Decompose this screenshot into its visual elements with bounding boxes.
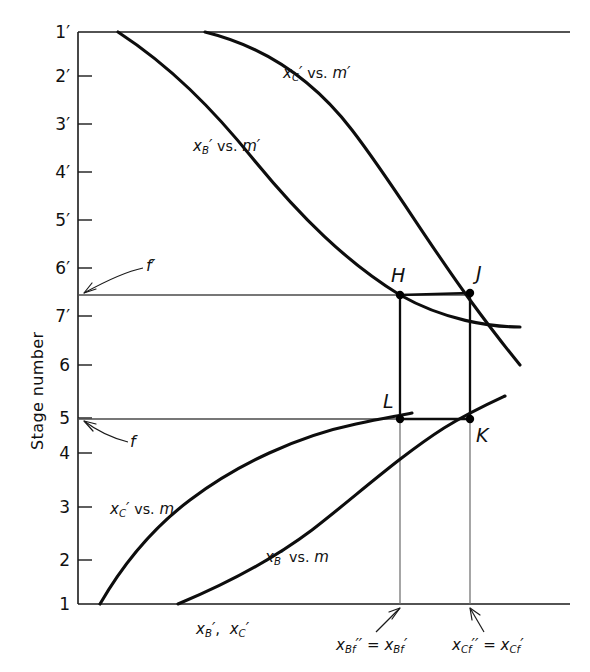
y-tick-label-2prime: 2′ [36, 66, 70, 86]
curve-label-xc-vs-m: xC′ vs. m [110, 500, 174, 519]
diagram-canvas [0, 0, 590, 672]
y-tick-label-1: 1 [36, 594, 70, 614]
curve-xc-vs-mprime [205, 32, 520, 365]
y-tick-label-7prime: 7′ [36, 306, 70, 326]
point-label-L: L [383, 390, 394, 412]
point-marker-H [396, 291, 404, 299]
leader-arrow-xbf [376, 608, 400, 632]
curve-label-xb-vs-m: xB′ vs. m [265, 548, 329, 567]
y-tick-label-6: 6 [36, 355, 70, 375]
curve-label-xc-vs-mprime: xC′ vs. m′ [283, 64, 350, 83]
y-tick-label-3prime: 3′ [36, 114, 70, 134]
leader-arrow-f-prime [84, 268, 143, 293]
y-tick-label-4: 4 [36, 443, 70, 463]
y-axis-ticks [78, 76, 92, 560]
annotation-f: f [130, 432, 136, 451]
annotation-f-prime: f′ [146, 256, 155, 275]
point-marker-K [466, 415, 474, 423]
leader-arrow-f [84, 421, 128, 442]
x-axis-label: xB′, xC′ [196, 620, 249, 639]
annotation-xbf-equality: xBf′′ = xBf′ [336, 636, 407, 655]
y-tick-label-5: 5 [36, 408, 70, 428]
point-marker-L [396, 415, 404, 423]
leader-arrow-xcf [470, 608, 484, 632]
point-marker-J [466, 289, 474, 297]
point-label-H: H [391, 264, 405, 286]
y-tick-label-4prime: 4′ [36, 162, 70, 182]
point-label-J: J [476, 262, 482, 284]
y-tick-label-6prime: 6′ [36, 258, 70, 278]
y-axis-title: Stage number [28, 331, 47, 450]
y-tick-label-2: 2 [36, 550, 70, 570]
figure-container: Stage number 1′ 2′ 3′ 4′ 5′ 6′ 7′ 6 5 4 … [0, 0, 590, 672]
annotation-xcf-equality: xCf′′ = xCf′ [452, 636, 524, 655]
y-tick-label-3: 3 [36, 497, 70, 517]
y-tick-label-5prime: 5′ [36, 210, 70, 230]
y-tick-label-1prime: 1′ [36, 22, 70, 42]
curve-label-xb-vs-mprime: xB′ vs. m′ [193, 137, 260, 156]
point-label-K: K [476, 424, 488, 446]
